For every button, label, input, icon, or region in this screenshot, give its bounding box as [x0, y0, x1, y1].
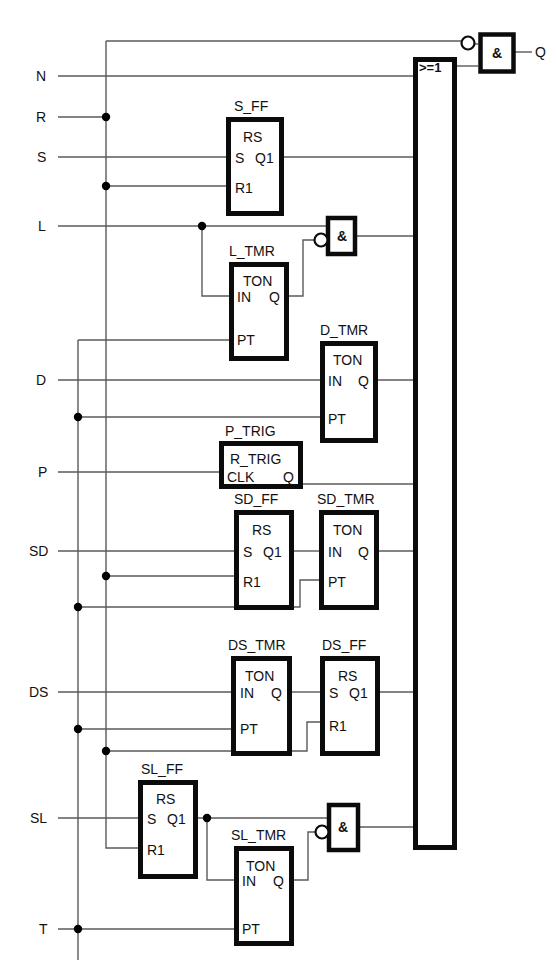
block-sl-tmr-name: SL_TMR	[231, 827, 286, 843]
block-l-tmr-name: L_TMR	[229, 243, 275, 259]
and-gate-sl[interactable]: &	[316, 805, 359, 850]
block-sl-ff-pin-r1: R1	[147, 842, 165, 858]
block-p-trig-pin-clk: CLK	[227, 469, 255, 485]
inverter-bubble-icon	[316, 826, 329, 839]
output-label-q: Q	[535, 44, 546, 60]
input-label-d: D	[36, 372, 46, 388]
block-ds-ff-pin-s: S	[329, 685, 338, 701]
junction-dot	[102, 747, 110, 755]
block-sl-ff-pin-q1: Q1	[167, 811, 186, 827]
block-d-tmr-pin-in: IN	[328, 373, 342, 389]
junction-dot	[74, 413, 82, 421]
and-gate-l-label: &	[337, 228, 347, 244]
or-block-body[interactable]	[416, 60, 455, 848]
wire-slff-q1-to-sltmr-in	[207, 818, 234, 880]
or-block-label: >=1	[419, 60, 441, 75]
block-s-ff[interactable]: S_FF RS S Q1 R1	[229, 98, 282, 214]
wire-layer	[58, 41, 532, 960]
input-label-t: T	[39, 921, 48, 937]
block-p-trig-type: R_TRIG	[230, 451, 281, 467]
block-sl-ff-name: SL_FF	[141, 761, 183, 777]
inverter-bubble-icon	[315, 234, 328, 247]
block-sl-ff-type: RS	[156, 791, 175, 807]
inverter-bubble-icon	[462, 37, 475, 50]
and-gate-l[interactable]: &	[315, 218, 356, 254]
and-gate-top-label: &	[492, 45, 502, 61]
input-label-sd: SD	[29, 543, 48, 559]
block-s-ff-type: RS	[243, 129, 262, 145]
block-l-tmr-pin-pt: PT	[237, 332, 255, 348]
block-sd-ff-type: RS	[252, 522, 271, 538]
block-ds-tmr-name: DS_TMR	[228, 637, 286, 653]
block-sl-tmr-pin-in: IN	[242, 873, 256, 889]
block-sd-ff-name: SD_FF	[234, 491, 278, 507]
wire-L-to-ltmr-in	[202, 226, 229, 296]
block-sl-tmr[interactable]: SL_TMR TON IN Q PT	[231, 827, 292, 944]
block-l-tmr-pin-q: Q	[269, 289, 280, 305]
block-sd-ff-pin-q1: Q1	[263, 544, 282, 560]
block-ds-tmr-pin-pt: PT	[240, 721, 258, 737]
junction-dot	[203, 814, 211, 822]
block-sd-tmr-pin-in: IN	[328, 544, 342, 560]
block-ds-tmr-pin-in: IN	[240, 685, 254, 701]
block-ds-tmr[interactable]: DS_TMR TON IN Q PT	[228, 637, 290, 754]
block-l-tmr-pin-in: IN	[237, 289, 251, 305]
input-label-l: L	[38, 218, 46, 234]
block-ds-ff-pin-q1: Q1	[349, 685, 368, 701]
junction-dot	[74, 725, 82, 733]
or-block-main[interactable]: >=1	[416, 60, 455, 848]
block-p-trig-name: P_TRIG	[225, 423, 276, 439]
logic-diagram-canvas: >=1 & & & S_FF RS S Q1 R1 L_TMR TON IN Q…	[0, 0, 557, 980]
input-label-n: N	[36, 68, 46, 84]
block-d-tmr-pin-q: Q	[358, 373, 369, 389]
block-sl-tmr-type: TON	[246, 858, 275, 874]
block-d-tmr-pin-pt: PT	[328, 411, 346, 427]
block-sd-tmr-pin-pt: PT	[328, 574, 346, 590]
block-ds-ff-name: DS_FF	[322, 637, 366, 653]
block-s-ff-pin-s: S	[235, 150, 244, 166]
input-label-sl: SL	[30, 810, 47, 826]
wire-ltmr-q-to-and	[288, 240, 316, 296]
block-sl-tmr-pin-q: Q	[273, 873, 284, 889]
block-sd-tmr[interactable]: SD_TMR TON IN Q PT	[317, 491, 377, 608]
junction-dot	[102, 572, 110, 580]
junction-dot	[74, 925, 82, 933]
output-label-layer: Q	[535, 44, 546, 60]
block-sl-tmr-pin-pt: PT	[242, 921, 260, 937]
block-sl-ff[interactable]: SL_FF RS S Q1 R1	[141, 761, 196, 877]
block-s-ff-pin-q1: Q1	[255, 150, 274, 166]
input-label-p: P	[38, 464, 47, 480]
block-s-ff-pin-r1: R1	[235, 180, 253, 196]
block-sd-ff-pin-r1: R1	[243, 574, 261, 590]
block-d-tmr-name: D_TMR	[320, 322, 368, 338]
input-label-r: R	[36, 109, 46, 125]
block-p-trig[interactable]: P_TRIG R_TRIG CLK Q	[222, 423, 301, 487]
block-ds-tmr-type: TON	[245, 668, 274, 684]
block-l-tmr-type: TON	[243, 273, 272, 289]
junction-dot	[74, 603, 82, 611]
wire-Tbus-to-slff-r1	[106, 760, 138, 848]
and-gate-sl-label: &	[338, 819, 348, 835]
wire-sltmr-q-to-andSL	[293, 832, 318, 880]
block-sl-ff-pin-s: S	[147, 811, 156, 827]
block-ds-ff-pin-r1: R1	[329, 718, 347, 734]
input-label-s: S	[37, 149, 46, 165]
block-l-tmr[interactable]: L_TMR TON IN Q PT	[229, 243, 287, 359]
block-s-ff-name: S_FF	[234, 98, 268, 114]
block-d-tmr-type: TON	[333, 352, 362, 368]
block-sd-tmr-name: SD_TMR	[317, 491, 375, 507]
junction-dot	[102, 182, 110, 190]
junction-dot	[102, 113, 110, 121]
block-ds-ff[interactable]: DS_FF RS S Q1 R1	[322, 637, 378, 754]
input-label-ds: DS	[29, 684, 48, 700]
junction-dot	[198, 222, 206, 230]
block-p-trig-pin-q: Q	[283, 469, 294, 485]
input-label-layer: N R S L D P SD DS SL T	[29, 68, 48, 937]
block-sd-ff-pin-s: S	[243, 544, 252, 560]
block-sd-tmr-type: TON	[333, 522, 362, 538]
block-ds-ff-type: RS	[338, 668, 357, 684]
block-ds-tmr-pin-q: Q	[271, 685, 282, 701]
block-sd-tmr-pin-q: Q	[358, 544, 369, 560]
block-sd-ff[interactable]: SD_FF RS S Q1 R1	[234, 491, 292, 608]
block-d-tmr[interactable]: D_TMR TON IN Q PT	[320, 322, 376, 441]
